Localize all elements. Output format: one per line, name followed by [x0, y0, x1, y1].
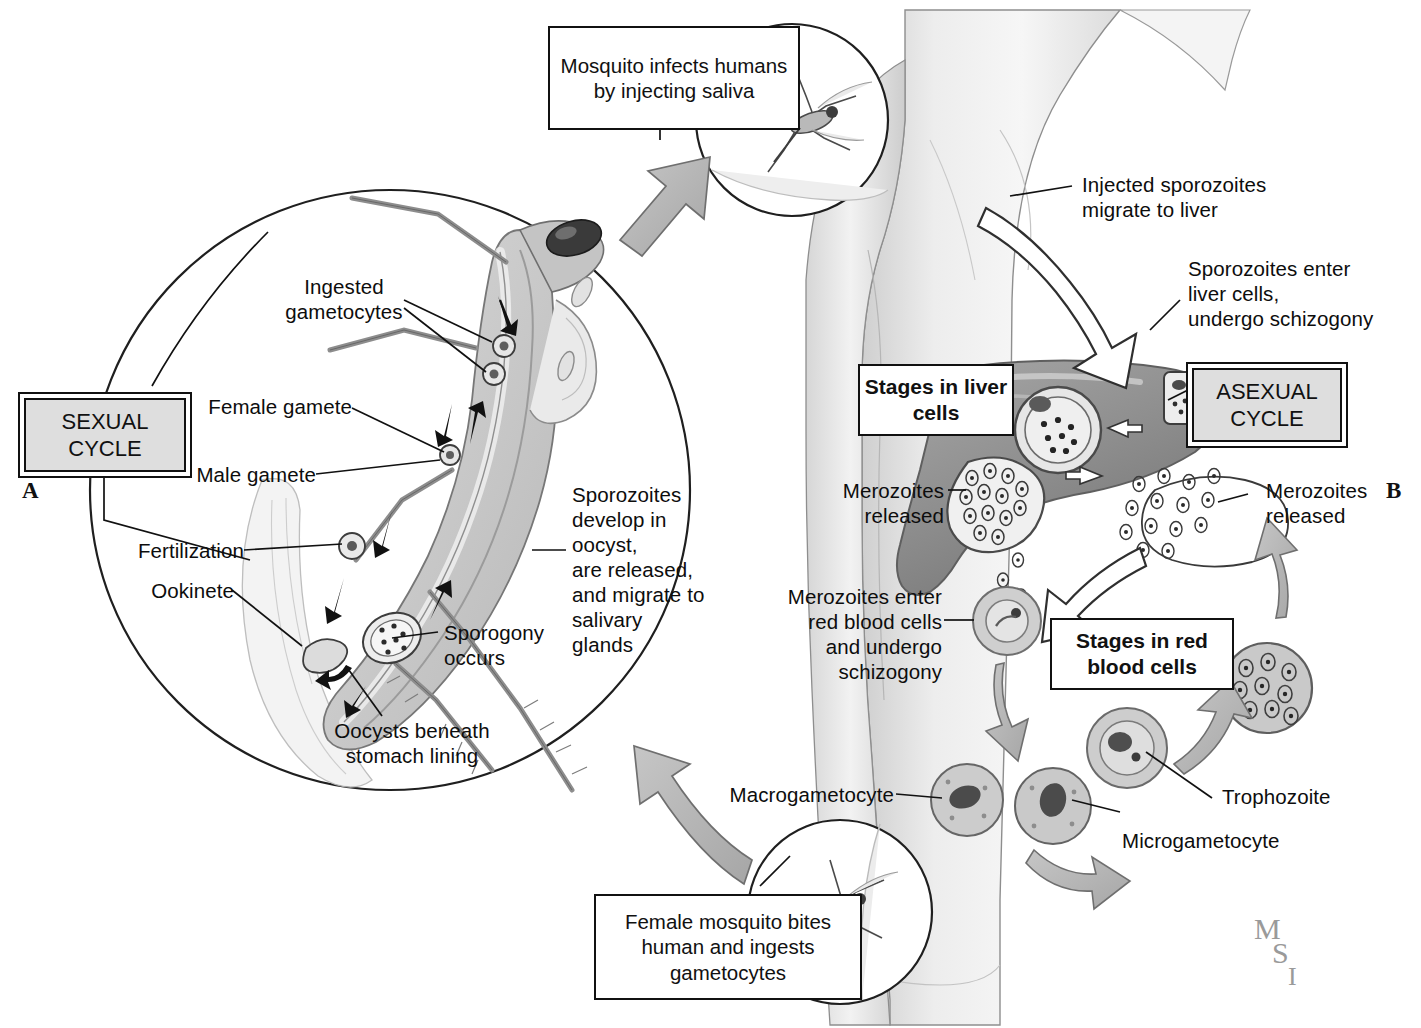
panel-a-identifier: A — [22, 478, 39, 504]
panel-b-identifier: B — [1386, 478, 1401, 504]
signature-line-3: I — [1288, 962, 1297, 992]
stage-box-liver-text: Stages in liver cells — [860, 374, 1012, 426]
malaria-life-cycle-figure: SEXUAL CYCLE ASEXUAL CYCLE Mosquito infe… — [0, 0, 1421, 1028]
callout-female-bites: Female mosquito bites human and ingests … — [594, 894, 862, 1000]
label-macrogametocyte: Macrogametocyte — [712, 782, 894, 807]
label-male-gamete: Male gamete — [152, 462, 316, 487]
stage-box-red-blood-cells: Stages in red blood cells — [1050, 618, 1234, 690]
label-oocysts-beneath-stomach-lining: Oocysts beneath stomach lining — [312, 718, 512, 768]
callout-mosquito-infects-text: Mosquito infects humans by injecting sal… — [560, 53, 788, 104]
label-injected-sporozoites: Injected sporozoites migrate to liver — [1082, 172, 1302, 222]
label-merozoites-released-liver: Merozoites released — [766, 478, 944, 528]
label-fertilization: Fertilization — [104, 538, 244, 563]
stage-box-rbc-text: Stages in red blood cells — [1052, 628, 1232, 680]
label-microgametocyte: Microgametocyte — [1122, 828, 1302, 853]
asexual-cycle-label: ASEXUAL CYCLE — [1192, 368, 1342, 442]
label-merozoites-enter-rbc: Merozoites enter red blood cells and und… — [756, 584, 942, 684]
label-female-gamete: Female gamete — [160, 394, 352, 419]
callout-mosquito-infects: Mosquito infects humans by injecting sal… — [548, 26, 800, 130]
label-trophozoite: Trophozoite — [1222, 784, 1362, 809]
label-sporozoites-enter-liver: Sporozoites enter liver cells, undergo s… — [1188, 256, 1408, 331]
artist-signature: M S I — [1254, 912, 1297, 992]
label-ookinete: Ookinete — [116, 578, 234, 603]
callout-female-bites-text: Female mosquito bites human and ingests … — [606, 909, 850, 986]
asexual-cycle-badge: ASEXUAL CYCLE — [1186, 362, 1348, 448]
stage-box-liver: Stages in liver cells — [858, 364, 1014, 436]
label-ingested-gametocytes: Ingested gametocytes — [272, 274, 416, 324]
label-sporozoites-develop: Sporozoites develop in oocyst, are relea… — [572, 482, 732, 657]
